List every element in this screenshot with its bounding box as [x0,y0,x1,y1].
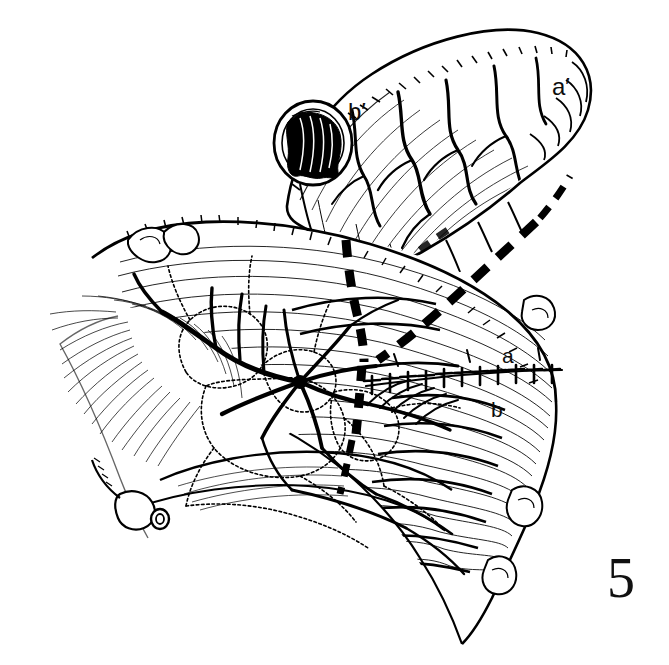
figure-illustration: a′ b′ a b 5 [0,0,669,665]
figure-number: 5 [607,546,635,610]
label-a-prime: a′ [552,75,570,99]
cut-end-lumen [274,101,352,185]
vascular-hub [293,375,307,389]
label-a: a [502,345,514,366]
label-b: b [491,399,503,420]
label-b-prime: b′ [348,100,366,124]
